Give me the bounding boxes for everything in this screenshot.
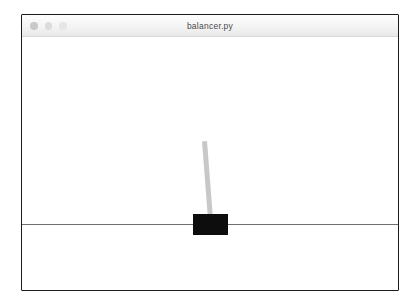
balancing-pole [202,141,213,219]
simulation-canvas [22,37,398,290]
window-titlebar[interactable]: balancer.py [22,15,398,37]
window-title: balancer.py [22,15,398,37]
window-controls [30,15,67,37]
screen-root: balancer.py [0,0,420,306]
maximize-button[interactable] [59,22,67,30]
minimize-button[interactable] [45,22,53,30]
cart [193,214,228,235]
application-window: balancer.py [21,14,399,291]
close-button[interactable] [30,22,38,30]
